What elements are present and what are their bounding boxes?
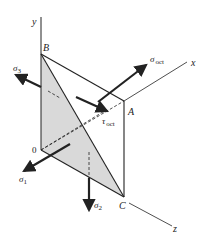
sigma3-arrow xyxy=(16,75,41,87)
sigma-oct-label: σoct xyxy=(150,54,164,66)
x-axis xyxy=(124,62,187,101)
octahedral-plane-diagram: y x z B A C 0 σ3 σoct τoct σ1 σ2 xyxy=(0,0,209,238)
tau-oct-label: τoct xyxy=(102,116,115,128)
origin-label: 0 xyxy=(32,145,37,155)
sigma2-label: σ2 xyxy=(94,200,102,212)
y-axis-label: y xyxy=(31,16,37,27)
sigma1-label: σ1 xyxy=(19,174,27,186)
point-A-label: A xyxy=(127,106,135,117)
point-B-label: B xyxy=(43,42,49,53)
z-axis xyxy=(129,203,172,226)
x-axis-label: x xyxy=(190,57,196,68)
point-C-label: C xyxy=(119,200,126,211)
sigma-oct-arrow xyxy=(98,65,146,102)
sigma3-label: σ3 xyxy=(13,63,21,75)
z-axis-label: z xyxy=(172,223,177,234)
